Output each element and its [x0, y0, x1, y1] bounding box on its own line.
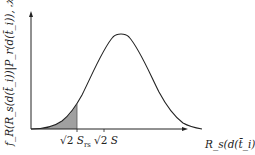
tick-label-sqrt2-srs: √2 Srs: [60, 134, 91, 149]
tick-sqrt: √2: [60, 134, 77, 146]
tick-var: S: [111, 134, 118, 146]
tick-sub: rs: [84, 141, 91, 149]
y-axis-label: f_R(R_s(d(t̄_i))|P_r(d(t̄_i)), 𝒦(d(t̄_i)…: [3, 0, 16, 146]
density-plot: [0, 0, 255, 155]
tick-sqrt: √2: [94, 134, 111, 146]
density-curve: [31, 34, 202, 129]
y-axis-arrow-icon: [29, 11, 33, 17]
tick-label-sqrt2-s: √2 S: [94, 134, 118, 146]
x-axis-label: R_s(d(t̄_i)): [205, 138, 255, 150]
x-axis-arrow-icon: [182, 127, 188, 131]
tick-var: S: [77, 134, 84, 146]
